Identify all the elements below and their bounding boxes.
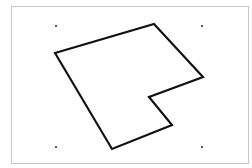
l-shaped-polygon — [55, 24, 203, 149]
diagram-canvas — [0, 0, 252, 168]
corner-dot — [55, 146, 57, 148]
corner-dots — [55, 25, 203, 148]
corner-dot — [201, 146, 203, 148]
corner-dot — [201, 25, 203, 27]
corner-dot — [55, 25, 57, 27]
